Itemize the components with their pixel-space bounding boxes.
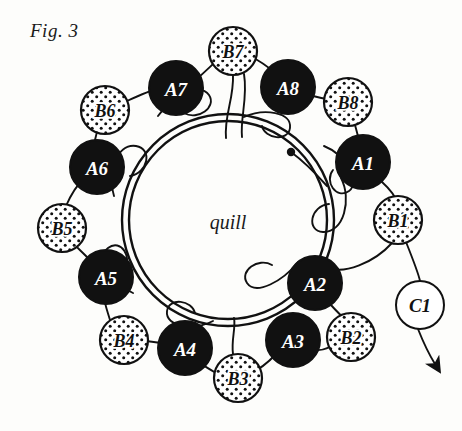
bobbin-b5[interactable]: B5 <box>38 204 86 252</box>
bobbin-b6[interactable]: B6 <box>81 86 129 134</box>
bobbin-b8-label: B8 <box>336 93 358 113</box>
tail-b3-ring <box>233 318 235 354</box>
bobbin-c1-group[interactable]: C1 <box>396 242 444 364</box>
bobbin-b4[interactable]: B4 <box>100 316 148 364</box>
bobbin-b6-label: B6 <box>93 101 115 121</box>
strand-b1-c1 <box>406 242 420 281</box>
bobbin-a7-label: A7 <box>164 79 189 100</box>
bobbin-b7-label: B7 <box>221 42 244 62</box>
bobbin-a5[interactable]: A5 <box>79 250 133 304</box>
bobbin-a8[interactable]: A8 <box>261 60 315 114</box>
bobbin-a8-label: A8 <box>276 78 300 99</box>
bobbin-a3[interactable]: A3 <box>266 313 320 367</box>
bobbin-a2-label: A2 <box>303 274 327 295</box>
bobbin-b4-label: B4 <box>112 331 134 351</box>
tail-b7-ring-2 <box>242 74 245 137</box>
bobbin-b8[interactable]: B8 <box>324 78 372 126</box>
bobbin-a1-label: A1 <box>351 153 374 174</box>
strand-b1-a2 <box>333 243 392 270</box>
thread-anchor-dot <box>287 148 295 156</box>
bobbin-a5-label: A5 <box>94 268 118 289</box>
bobbin-b1[interactable]: B1 <box>374 196 422 244</box>
bobbin-a4[interactable]: A4 <box>158 321 212 375</box>
bobbin-a3-label: A3 <box>281 331 304 352</box>
bobbin-a7[interactable]: A7 <box>149 61 203 115</box>
tail-b7-ring <box>226 75 233 138</box>
bobbin-b2[interactable]: B2 <box>327 313 375 361</box>
bobbin-b1-label: B1 <box>386 211 408 231</box>
bobbin-b5-label: B5 <box>50 219 72 239</box>
quill-center-label: quill <box>210 211 247 234</box>
bobbin-a6[interactable]: A6 <box>70 140 124 194</box>
bobbin-b3-label: B3 <box>226 369 248 389</box>
bobbin-b7[interactable]: B7 <box>209 27 257 75</box>
bobbin-a1[interactable]: A1 <box>336 135 390 189</box>
bobbin-a4-label: A4 <box>173 339 196 360</box>
bobbin-a2[interactable]: A2 <box>288 256 342 310</box>
flow-arrow <box>418 329 435 364</box>
bobbin-c1-label: C1 <box>409 295 431 316</box>
bobbin-a6-label: A6 <box>85 158 109 179</box>
bobbin-b2-label: B2 <box>339 328 361 348</box>
bobbin-b3[interactable]: B3 <box>214 354 262 402</box>
